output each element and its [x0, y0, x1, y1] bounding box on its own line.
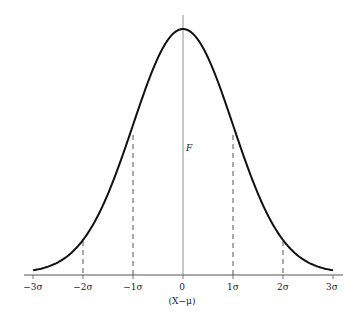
tick-label: −2σ — [73, 282, 92, 292]
x-axis-label: (X−μ) — [169, 296, 196, 306]
tick-label: 1σ — [227, 282, 239, 292]
tick-label: 2σ — [277, 282, 289, 292]
tick-marks — [33, 275, 333, 279]
tick-label: −3σ — [23, 282, 42, 292]
tick-label: 0 — [179, 282, 185, 292]
tick-labels: −3σ −2σ −1σ 0 1σ 2σ 3σ — [23, 282, 338, 292]
center-label: F — [185, 143, 193, 153]
tick-label: −1σ — [123, 282, 142, 292]
tick-label: 3σ — [326, 282, 338, 292]
normal-curve-diagram: F −3σ −2σ −1σ 0 1σ 2σ 3σ (X−μ) — [0, 0, 364, 319]
